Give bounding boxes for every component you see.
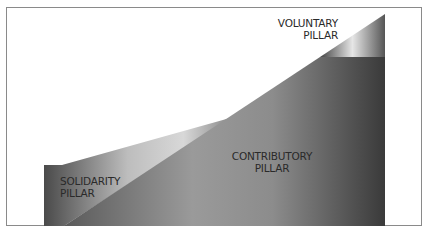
voluntary-pillar-label: VOLUNTARY PILLAR <box>258 17 338 41</box>
solidarity-pillar-label: SOLIDARITY PILLAR <box>60 175 120 199</box>
contributory-label-line1: CONTRIBUTORY <box>222 150 322 162</box>
voluntary-label-line2: PILLAR <box>258 29 338 41</box>
voluntary-label-line1: VOLUNTARY <box>258 17 338 29</box>
pillars-diagram <box>0 0 431 236</box>
solidarity-label-line2: PILLAR <box>60 187 120 199</box>
contributory-pillar-label: CONTRIBUTORY PILLAR <box>222 150 322 174</box>
solidarity-label-line1: SOLIDARITY <box>60 175 120 187</box>
contributory-pillar-shape <box>64 57 385 226</box>
contributory-label-line2: PILLAR <box>222 162 322 174</box>
